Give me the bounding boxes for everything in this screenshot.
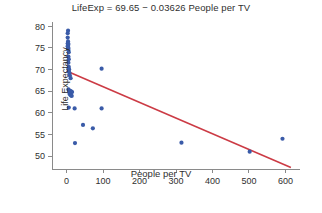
data-points-group	[66, 29, 285, 154]
data-point	[280, 137, 284, 141]
data-point	[248, 150, 252, 154]
data-point	[81, 123, 85, 127]
data-point	[91, 126, 95, 130]
y-tick-label: 55	[35, 130, 45, 140]
regression-line-group	[67, 71, 291, 167]
data-point	[73, 106, 77, 110]
plot-area: 010020030040050060050556065707580 Life E…	[52, 22, 300, 169]
data-point	[70, 94, 74, 98]
axes-group: 010020030040050060050556065707580	[35, 22, 300, 186]
x-axis-label: People per TV	[0, 168, 322, 179]
y-tick-label: 50	[35, 151, 45, 161]
plot-svg: 010020030040050060050556065707580	[52, 22, 300, 169]
y-axis-label: Life Expectancy	[60, 19, 70, 139]
data-point	[73, 141, 77, 145]
regression-line	[67, 71, 291, 167]
chart-title: LifeExp = 69.65 − 0.03626 People per TV	[0, 2, 322, 13]
y-tick-label: 80	[35, 22, 45, 32]
scatter-chart-figure: LifeExp = 69.65 − 0.03626 People per TV …	[0, 0, 322, 213]
data-point	[100, 67, 104, 71]
y-tick-label: 65	[35, 86, 45, 96]
data-point	[179, 141, 183, 145]
y-tick-label: 75	[35, 43, 45, 53]
data-point	[100, 106, 104, 110]
y-tick-label: 60	[35, 108, 45, 118]
y-tick-label: 70	[35, 65, 45, 75]
